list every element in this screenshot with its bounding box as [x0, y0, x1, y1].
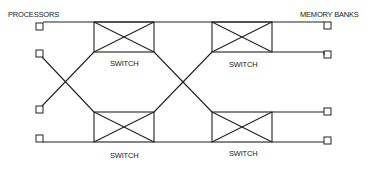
switch-bottom-left-label: SWITCH: [110, 151, 138, 160]
processors-label: PROCESSORS: [8, 10, 59, 19]
memory-bank-node-4: [324, 137, 331, 144]
switch-bottom-right: [212, 112, 272, 142]
switch-network-diagram: PROCESSORS MEMORY BANKS SWITCH SWITCH SW…: [0, 0, 378, 169]
memory-bank-node-2: [324, 51, 331, 58]
link-p2-to-switch-bl: [42, 57, 94, 112]
switch-top-left-label: SWITCH: [110, 59, 138, 68]
memory-bank-node-3: [324, 108, 331, 115]
processor-node-1: [36, 23, 43, 30]
memory-bank-node-1: [324, 22, 331, 29]
processor-node-2: [36, 50, 43, 57]
processor-node-3: [36, 106, 43, 113]
link-p3-to-switch-tl: [42, 52, 94, 106]
processor-node-4: [36, 135, 43, 142]
switch-bottom-right-label: SWITCH: [229, 149, 257, 158]
switch-top-left: [94, 22, 154, 52]
switch-top-right: [212, 22, 272, 52]
switch-top-right-label: SWITCH: [229, 60, 257, 69]
switch-bottom-left: [94, 112, 154, 142]
link-switch-tr-to-m2: [272, 52, 324, 55]
memory-banks-label: MEMORY BANKS: [300, 10, 359, 19]
